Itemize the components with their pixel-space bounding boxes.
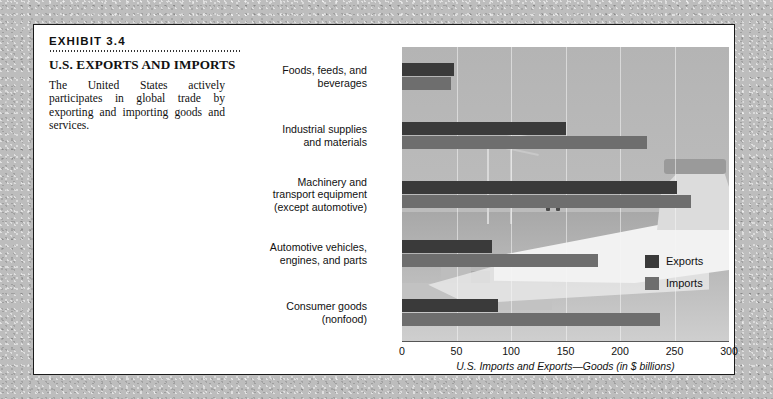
photo-ship-bridge-roof: [664, 159, 726, 174]
bar-imports: [402, 195, 691, 208]
x-tick-label: 150: [557, 345, 575, 357]
category-label: Industrial suppliesand materials: [67, 123, 367, 147]
category-label: Automotive vehicles,engines, and parts: [67, 241, 367, 265]
x-tick-label: 250: [666, 345, 684, 357]
legend-label-exports: Exports: [666, 255, 703, 267]
x-tick-label: 200: [611, 345, 629, 357]
x-tick-label: 300: [720, 345, 738, 357]
x-tick-label: 100: [502, 345, 520, 357]
x-tick-label: 0: [399, 345, 405, 357]
bar-exports: [402, 122, 566, 135]
x-axis-line: [402, 341, 729, 342]
plot-area: [402, 47, 729, 342]
legend-swatch-imports-icon: [645, 277, 659, 290]
exhibit-panel: EXHIBIT 3.4 U.S. EXPORTS AND IMPORTS The…: [33, 24, 735, 375]
legend-label-imports: Imports: [666, 277, 703, 289]
category-axis-labels: Foods, feeds, andbeveragesIndustrial sup…: [67, 47, 367, 342]
chart-legend: Exports Imports: [645, 250, 703, 294]
category-label: Foods, feeds, andbeverages: [67, 64, 367, 88]
legend-item-imports: Imports: [645, 272, 703, 294]
category-label: Consumer goods(nonfood): [67, 300, 367, 324]
exhibit-number: EXHIBIT 3.4: [49, 35, 249, 47]
bar-imports: [402, 254, 598, 267]
bar-chart: Foods, feeds, andbeveragesIndustrial sup…: [369, 47, 721, 365]
bar-exports: [402, 181, 677, 194]
x-axis-ticks: 050100150200250300: [402, 345, 729, 361]
bar-imports: [402, 77, 451, 90]
bar-exports: [402, 299, 498, 312]
bar-imports: [402, 313, 660, 326]
x-axis-title: U.S. Imports and Exports—Goods (in $ bil…: [402, 361, 729, 372]
legend-item-exports: Exports: [645, 250, 703, 272]
bar-exports: [402, 240, 492, 253]
category-label: Machinery andtransport equipment(except …: [67, 176, 367, 213]
legend-swatch-exports-icon: [645, 255, 659, 268]
bar-exports: [402, 63, 454, 76]
bar-imports: [402, 136, 647, 149]
x-tick-label: 50: [451, 345, 463, 357]
